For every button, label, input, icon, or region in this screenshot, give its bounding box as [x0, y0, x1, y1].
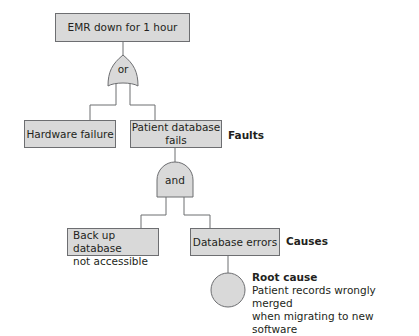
database-errors-box: Database errors [190, 228, 280, 256]
patient-database-line2: fails [165, 134, 186, 147]
hardware-failure-label: Hardware failure [26, 128, 113, 141]
top-event-box: EMR down for 1 hour [55, 13, 190, 42]
or-gate-label: or [108, 63, 138, 75]
patient-database-line1: Patient database [132, 121, 221, 134]
top-event-label: EMR down for 1 hour [68, 21, 178, 34]
patient-database-fails-box: Patient database fails [130, 120, 222, 148]
backup-database-line2: not accessible [73, 255, 148, 268]
faults-label: Faults [228, 129, 264, 141]
database-errors-label: Database errors [193, 236, 277, 249]
root-cause-line2: when migrating to new software [252, 310, 419, 336]
root-cause-circle-icon [211, 273, 245, 307]
root-cause-text: Root cause Patient records wrongly merge… [252, 271, 419, 336]
backup-database-line1: Back up database [73, 229, 158, 255]
root-cause-title: Root cause [252, 271, 317, 283]
hardware-failure-box: Hardware failure [24, 120, 116, 148]
and-gate-label: and [157, 174, 193, 186]
root-cause-line1: Patient records wrongly merged [252, 284, 419, 310]
backup-database-box: Back up database not accessible [67, 228, 159, 256]
causes-label: Causes [286, 235, 328, 247]
